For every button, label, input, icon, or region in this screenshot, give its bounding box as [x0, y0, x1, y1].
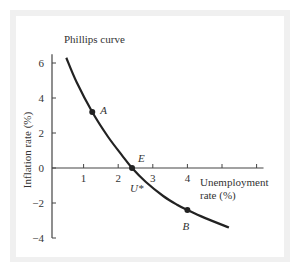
y-tick-label: 0: [39, 162, 45, 174]
natural-rate-label: U*: [130, 182, 144, 194]
y-tick-label: −4: [32, 232, 44, 244]
x-tick-label: 3: [150, 172, 156, 184]
phillips-curve-chart: Phillips curve Inflation rate (%) Unempl…: [0, 0, 297, 269]
y-tick-label: 4: [39, 92, 45, 104]
x-axis-label-line1: Unemployment: [200, 176, 268, 188]
y-tick-label: 6: [39, 57, 45, 69]
point-label-e: E: [137, 152, 145, 164]
phillips-curve-line: [66, 58, 229, 228]
y-tick-label: 2: [39, 127, 45, 139]
x-axis-label-line2: rate (%): [200, 189, 236, 202]
point-label-b: B: [182, 220, 189, 232]
x-tick-label: 2: [115, 172, 121, 184]
x-tick-label: 1: [81, 172, 87, 184]
chart-title: Phillips curve: [64, 33, 125, 45]
point-a: [89, 109, 95, 115]
y-axis-label: Inflation rate (%): [21, 111, 34, 188]
point-e: [129, 165, 135, 171]
x-tick-label: 4: [185, 172, 191, 184]
y-tick-label: −2: [32, 197, 44, 209]
point-label-a: A: [99, 104, 107, 116]
point-b: [184, 207, 190, 213]
